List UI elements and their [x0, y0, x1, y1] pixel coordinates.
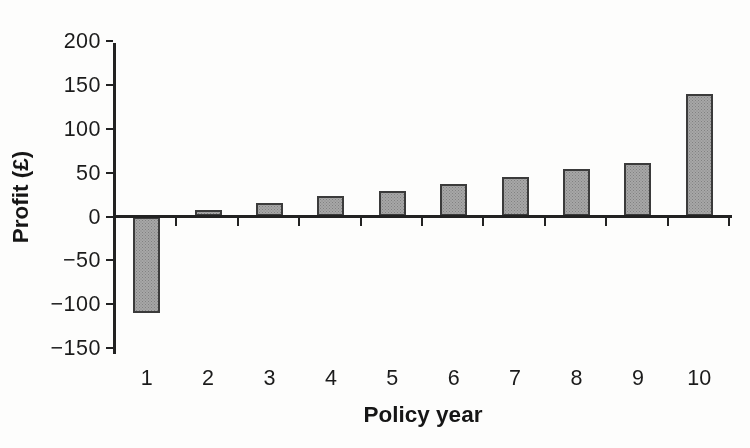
y-tick-150	[106, 84, 113, 86]
bar-year-1	[133, 217, 160, 313]
y-tick--50	[106, 259, 113, 261]
x-tick-label-2: 2	[186, 366, 230, 390]
y-tick-0	[106, 216, 113, 218]
x-tick-7	[544, 218, 546, 226]
x-tick-label-1: 1	[125, 366, 169, 390]
x-tick-8	[605, 218, 607, 226]
y-tick-label--100: −100	[30, 291, 101, 317]
x-axis-title: Policy year	[116, 402, 730, 428]
y-tick-label-100: 100	[30, 116, 101, 142]
x-tick-10	[728, 218, 730, 226]
bar-year-6	[440, 184, 467, 216]
x-tick-label-5: 5	[370, 366, 414, 390]
x-tick-9	[667, 218, 669, 226]
y-tick-label-0: 0	[30, 204, 101, 230]
bar-year-5	[379, 191, 406, 216]
bar-year-7	[502, 177, 529, 216]
y-tick-label-150: 150	[30, 72, 101, 98]
x-tick-label-9: 9	[616, 366, 660, 390]
bar-year-8	[563, 169, 590, 216]
x-tick-label-4: 4	[309, 366, 353, 390]
y-tick-label-200: 200	[30, 28, 101, 54]
x-tick-4	[360, 218, 362, 226]
x-tick-label-6: 6	[432, 366, 476, 390]
y-tick-label--150: −150	[30, 335, 101, 361]
y-tick-100	[106, 128, 113, 130]
x-tick-3	[298, 218, 300, 226]
bar-year-4	[317, 196, 344, 216]
x-tick-5	[421, 218, 423, 226]
y-axis-line	[113, 43, 116, 354]
x-tick-6	[482, 218, 484, 226]
x-tick-label-7: 7	[493, 366, 537, 390]
x-tick-2	[237, 218, 239, 226]
x-tick-label-3: 3	[248, 366, 292, 390]
profit-signature-bar-chart: Profit (£) 200150100500−50−100−150123456…	[0, 0, 750, 448]
x-tick-label-10: 10	[677, 366, 721, 390]
y-tick-50	[106, 172, 113, 174]
x-tick-1	[175, 218, 177, 226]
bar-year-10	[686, 94, 713, 217]
y-tick--150	[106, 347, 113, 349]
y-tick-200	[106, 40, 113, 42]
x-tick-label-8: 8	[555, 366, 599, 390]
bar-year-9	[624, 163, 651, 216]
y-tick--100	[106, 303, 113, 305]
y-tick-label--50: −50	[30, 247, 101, 273]
y-tick-label-50: 50	[30, 160, 101, 186]
